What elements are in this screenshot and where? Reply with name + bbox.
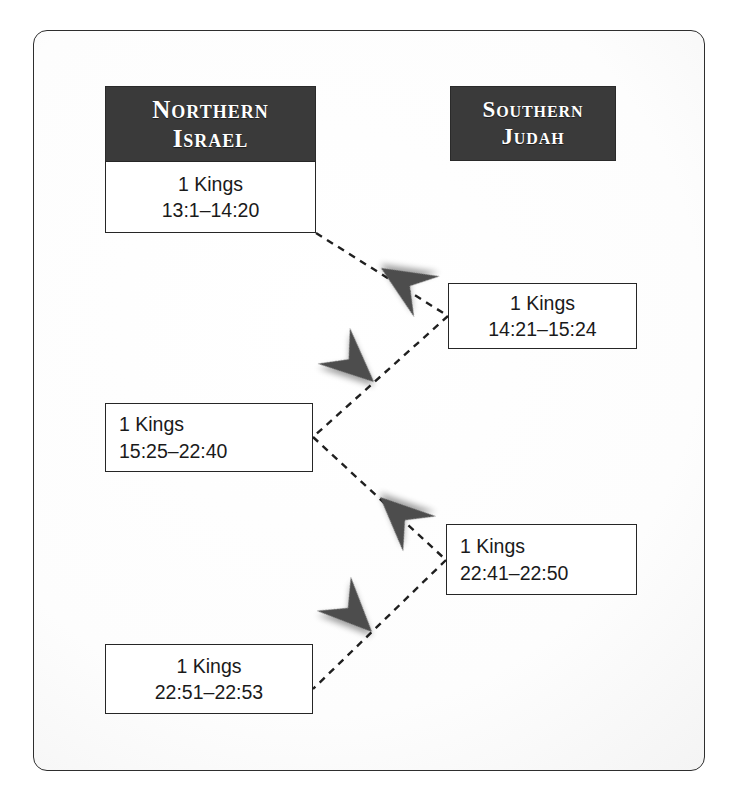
column-header-line-2: Judah — [501, 124, 564, 151]
passage-book: 1 Kings — [176, 653, 241, 679]
passage-book: 1 Kings — [510, 290, 575, 316]
passage-reference: 15:25–22:40 — [119, 438, 227, 464]
column-header-line-2: Israel — [173, 124, 249, 153]
column-header-northern-israel: Northern Israel — [105, 86, 316, 162]
passage-box-south-2: 1 Kings 22:41–22:50 — [446, 524, 637, 595]
passage-book: 1 Kings — [178, 171, 243, 197]
column-header-southern-judah: Southern Judah — [450, 86, 616, 161]
column-header-line-1: Southern — [482, 97, 583, 124]
passage-box-north-1: 1 Kings 13:1–14:20 — [105, 161, 316, 233]
passage-book: 1 Kings — [119, 411, 184, 437]
passage-book: 1 Kings — [460, 533, 525, 559]
passage-box-south-1: 1 Kings 14:21–15:24 — [448, 283, 637, 349]
passage-box-north-2: 1 Kings 15:25–22:40 — [105, 403, 313, 472]
column-header-line-1: Northern — [152, 95, 268, 124]
kings-chronology-diagram: Northern Israel Southern Judah 1 Kings 1… — [0, 0, 737, 794]
passage-reference: 22:41–22:50 — [460, 560, 568, 586]
passage-box-north-3: 1 Kings 22:51–22:53 — [105, 644, 313, 714]
passage-reference: 14:21–15:24 — [488, 316, 596, 342]
passage-reference: 22:51–22:53 — [155, 679, 263, 705]
passage-reference: 13:1–14:20 — [162, 197, 260, 223]
